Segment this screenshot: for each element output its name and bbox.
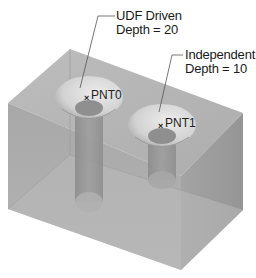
callout-independent-line2: Depth = 10 [185,62,255,76]
callout-udf-driven: UDF Driven Depth = 20 [116,9,182,37]
callout-independent: Independent Depth = 10 [185,48,255,76]
point-label-pnt0: PNT0 [91,89,122,101]
callout-independent-line1: Independent [185,48,255,62]
point-marker-pnt1-icon: × [158,122,163,131]
cad-figure: UDF Driven Depth = 20 Independent Depth … [0,0,256,278]
block-model [0,0,256,278]
hole-bottom [75,192,103,212]
point-marker-pnt0-icon: × [84,94,89,103]
callout-udf-line1: UDF Driven [116,9,182,23]
point-label-pnt1: PNT1 [165,117,196,129]
hole-shaft-deep [75,112,103,202]
callout-udf-line2: Depth = 20 [116,23,182,37]
hole-bottom [148,171,176,189]
